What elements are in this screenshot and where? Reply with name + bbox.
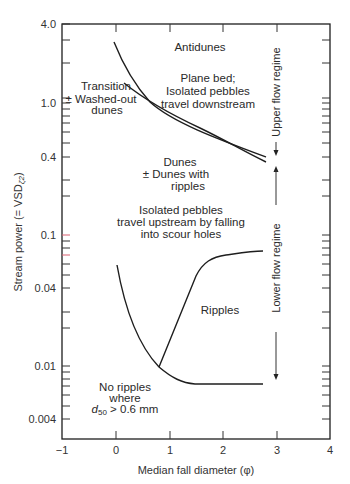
upper-flow-regime-label: Upper flow regime: [270, 47, 282, 136]
x-tick-label: 4: [327, 444, 333, 456]
y-axis-ticks-left: [62, 24, 70, 419]
x-tick-label: 0: [113, 444, 119, 456]
y-tick-label: 0.4: [41, 151, 56, 163]
region-label-plane-bed: Plane bed;: [181, 72, 236, 84]
y-tick-label: 0.04: [35, 282, 56, 294]
lower-flow-regime-indicator: Lower flow regime: [270, 166, 282, 380]
region-label-pebbles-upstream: into scour holes: [141, 228, 222, 240]
lower-flow-regime-label: Lower flow regime: [270, 223, 282, 312]
y-tick-label: 4.0: [41, 18, 56, 30]
y-tick-labels: 4.0 1.0 0.4 0.1 0.04 0.01 0.004: [28, 18, 56, 425]
y-tick-label: 0.1: [41, 229, 56, 241]
y-axis-title: Stream power (= VSDζ2): [12, 172, 26, 291]
region-label-pebbles-upstream: Isolated pebbles: [139, 204, 223, 216]
x-tick-label: 1: [167, 444, 173, 456]
x-tick-labels: −1 0 1 2 3 4: [56, 444, 333, 456]
upper-flow-regime-indicator: Upper flow regime: [270, 47, 282, 156]
region-label-ripples: Ripples: [201, 304, 240, 316]
region-label-no-ripples: d50 > 0.6 mm: [92, 403, 159, 417]
y-axis-ticks-right: [322, 40, 330, 419]
region-label-dunes: ± Dunes with: [143, 168, 209, 180]
region-label-plane-bed: travel downstream: [161, 98, 255, 110]
ripples-lower-curve: [117, 265, 263, 384]
region-label-plane-bed: Isolated pebbles: [166, 85, 250, 97]
arrow-down-icon: [274, 150, 279, 156]
arrow-down-icon: [274, 374, 279, 380]
region-label-transition: Transition: [81, 80, 131, 92]
bedform-stability-chart: 4.0 1.0 0.4 0.1 0.04 0.01 0.004 −1 0 1 2…: [0, 0, 350, 484]
x-tick-label: −1: [56, 444, 69, 456]
y-tick-label: 0.01: [35, 360, 56, 372]
y-tick-label: 0.004: [28, 413, 56, 425]
x-tick-label: 2: [220, 444, 226, 456]
y-tick-label: 1.0: [41, 97, 56, 109]
region-label-dunes: Dunes: [163, 156, 196, 168]
region-label-transition: dunes: [91, 104, 123, 116]
x-tick-label: 3: [274, 444, 280, 456]
x-axis-title: Median fall diameter (φ): [138, 464, 255, 476]
region-label-antidunes: Antidunes: [174, 41, 225, 53]
region-label-dunes: ripples: [171, 180, 205, 192]
region-label-pebbles-upstream: travel upstream by falling: [117, 216, 245, 228]
